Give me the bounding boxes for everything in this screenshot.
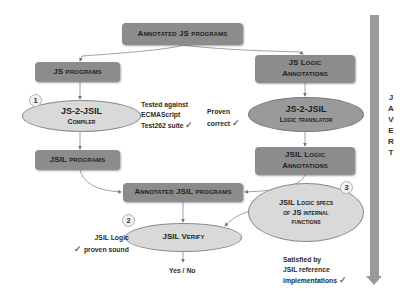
- proven-line1: Proven: [207, 107, 240, 117]
- jsil-logic-annotations-box: JSIL Logic Annotations: [255, 147, 355, 175]
- proven-correct-note: Proven correct ✓: [207, 107, 240, 129]
- annotated-jsil-programs-label: Annotated JSIL programs: [134, 187, 231, 198]
- jsil-verify-ellipse: JSIL Verify: [125, 223, 242, 252]
- js-logic-annotations-line1: JS Logic: [288, 58, 321, 69]
- specs-line3: functions: [291, 217, 320, 227]
- jsil-programs-label: JSIL programs: [50, 155, 106, 166]
- specs-line1: JSIL Logic specs: [279, 198, 333, 208]
- satisfied-line3: implementations: [283, 277, 337, 284]
- logic-translator-ellipse: JS-2-JSIL Logic translator: [248, 97, 364, 132]
- javert-letter: T: [389, 147, 394, 158]
- jsil-logic-annotations-line2: Annotations: [282, 161, 328, 172]
- proven-sound-note: JSIL Logic ✓ proven sound: [74, 233, 129, 255]
- logic-translator-line1: JS-2-JSIL: [285, 104, 326, 116]
- satisfied-line1: Satisfied by: [283, 255, 347, 265]
- sound-line2: proven sound: [84, 246, 129, 253]
- proven-line2: correct: [207, 120, 230, 127]
- logic-translator-line2: Logic translator: [280, 116, 333, 124]
- sound-line1: JSIL Logic: [74, 233, 129, 243]
- compiler-line2: Compiler: [68, 117, 96, 126]
- annotated-js-programs-label: Annotated JS programs: [138, 29, 228, 40]
- marker-3: 3: [340, 181, 353, 194]
- js-logic-annotations-box: JS Logic Annotations: [255, 55, 355, 83]
- check-icon: ✓: [339, 275, 347, 285]
- javert-letter: E: [388, 125, 393, 136]
- compiler-line1: JS-2-JSIL: [61, 106, 102, 118]
- check-icon: ✓: [185, 120, 193, 130]
- javert-letter: R: [388, 136, 394, 147]
- js-logic-annotations-line2: Annotations: [282, 69, 328, 80]
- tested-line1: Tested against: [141, 100, 193, 110]
- javert-letter: J: [389, 92, 393, 103]
- tested-note: Tested against ECMAScript Test262 suite …: [141, 100, 193, 132]
- jsil-logic-annotations-line1: JSIL Logic: [285, 150, 325, 161]
- jsil-verify-label: JSIL Verify: [163, 232, 205, 242]
- satisfied-note: Satisfied by JSIL reference implementati…: [283, 255, 347, 287]
- tested-line3: Test262 suite: [141, 122, 184, 129]
- javert-letter: V: [388, 114, 393, 125]
- marker-1: 1: [29, 94, 42, 107]
- javert-label: J A V E R T: [385, 92, 397, 158]
- js-programs-label: JS programs: [53, 67, 101, 78]
- result-label: Yes / No: [169, 266, 195, 276]
- specs-line2: of JS internal: [283, 208, 329, 218]
- javert-arrow-head-icon: [366, 276, 382, 285]
- jsil-programs-box: JSIL programs: [35, 150, 120, 170]
- javert-letter: A: [388, 103, 394, 114]
- check-icon: ✓: [232, 118, 240, 128]
- annotated-jsil-programs-box: Annotated JSIL programs: [123, 183, 243, 202]
- tested-line2: ECMAScript: [141, 110, 193, 120]
- js-programs-box: JS programs: [35, 62, 120, 82]
- marker-2: 2: [122, 214, 135, 227]
- annotated-js-programs-box: Annotated JS programs: [122, 23, 243, 45]
- javert-arrow-shaft: [370, 15, 379, 277]
- check-icon: ✓: [74, 244, 82, 254]
- satisfied-line2: JSIL reference: [283, 265, 347, 275]
